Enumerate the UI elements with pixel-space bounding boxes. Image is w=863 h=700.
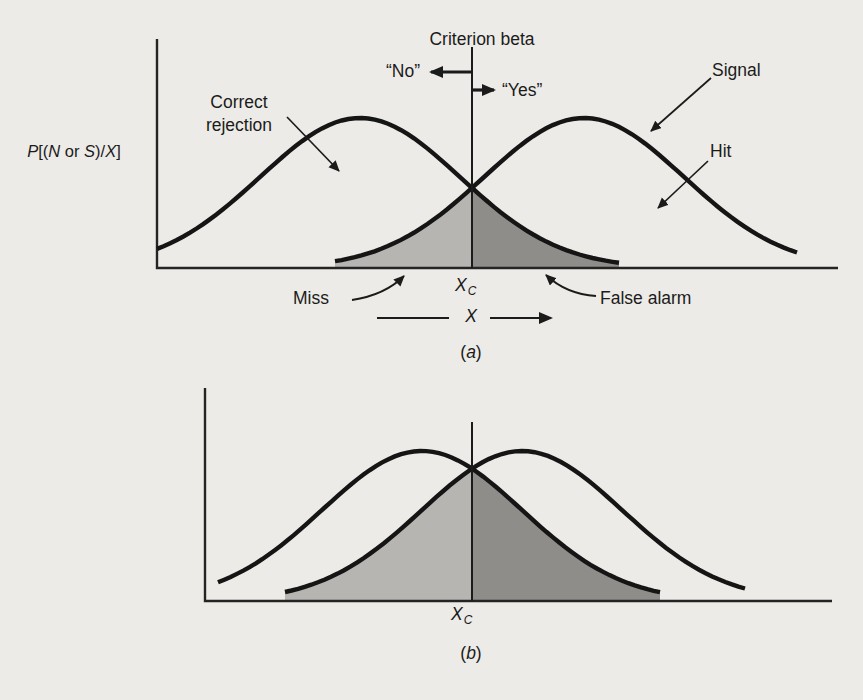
- xc-b-base: X: [451, 604, 463, 624]
- panel-a-criterion-tick-label: XC: [455, 275, 476, 296]
- false-alarm-region: [472, 188, 619, 268]
- noise-distribution-curve: [157, 118, 619, 263]
- xc-a-subscript: C: [468, 284, 477, 298]
- y-axis-label-bracket2: ]: [116, 142, 121, 160]
- no-response-label: “No”: [352, 61, 420, 82]
- y-axis-label-N: N: [48, 142, 60, 160]
- y-axis-label: P[(N or S)/X]: [6, 142, 142, 162]
- caption-b-letter: b: [466, 643, 476, 663]
- panel-b-criterion-tick-label: XC: [451, 604, 472, 625]
- panel-a-caption: (a): [441, 342, 501, 363]
- caption-a-letter: a: [466, 342, 476, 362]
- y-axis-label-S: S: [84, 142, 95, 160]
- y-axis-label-bracket1: [(: [38, 142, 48, 160]
- false-alarm-arrow: [546, 275, 596, 296]
- y-axis-label-or: or: [60, 142, 84, 160]
- criterion-beta-label: Criterion beta: [402, 29, 562, 50]
- y-axis-label-X: X: [105, 142, 116, 160]
- signal-arrow: [651, 78, 711, 131]
- hit-arrow: [658, 161, 708, 208]
- y-axis-label-slash: )/: [95, 142, 105, 160]
- signal-detection-figure: Criterion beta “No” “Yes” Signal Hit Cor…: [0, 0, 863, 700]
- caption-b-close: ): [476, 643, 482, 663]
- hit-label: Hit: [710, 141, 731, 162]
- miss-label: Miss: [293, 288, 329, 309]
- correct-rejection-line1: Correct: [168, 91, 310, 114]
- caption-a-close: ): [476, 342, 482, 362]
- figure-canvas: [0, 0, 863, 700]
- panel-b-caption: (b): [441, 643, 501, 664]
- panel-a-shaded-regions: [335, 188, 619, 268]
- correct-rejection-line2: rejection: [168, 114, 310, 137]
- y-axis-label-P: P: [27, 142, 38, 160]
- correct-rejection-label: Correct rejection: [168, 91, 310, 137]
- xc-a-base: X: [455, 275, 467, 295]
- signal-label: Signal: [712, 60, 761, 81]
- annotation-arrows: [287, 72, 711, 318]
- x-axis-label: X: [441, 306, 501, 327]
- miss-arrow: [352, 276, 404, 300]
- yes-response-label: “Yes”: [502, 80, 542, 101]
- xc-b-subscript: C: [464, 613, 473, 627]
- signal-distribution-curve: [335, 118, 797, 261]
- false-alarm-label: False alarm: [600, 288, 691, 309]
